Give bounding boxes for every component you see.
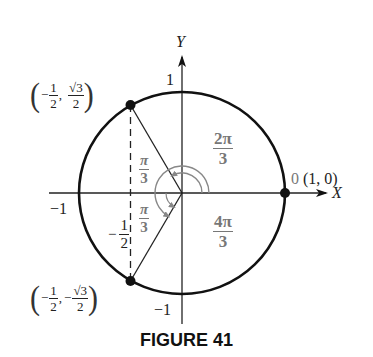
- point-upper: [126, 100, 136, 110]
- angle-label-2pi-3: 2π 3: [213, 130, 233, 167]
- point-right-label: 0 (1, 0): [291, 170, 338, 188]
- angle-label-lower-pi-3: π 3: [139, 202, 149, 235]
- tick-x-neg-1: −1: [50, 200, 67, 218]
- minus-sign: −: [108, 226, 116, 243]
- half-fraction: 1 2: [119, 218, 129, 251]
- point-right: [280, 188, 290, 198]
- point-lower: [126, 276, 136, 286]
- figure-caption: FIGURE 41: [0, 330, 373, 351]
- tick-y-neg-1: −1: [154, 301, 171, 319]
- tick-x-neg-half: − 1 2: [108, 218, 129, 251]
- angle-label-4pi-3: 4π 3: [213, 213, 233, 250]
- angle-label-upper-pi-3: π 3: [139, 153, 149, 186]
- point-lower-label: ( − 1 2 , − √3 2 ): [30, 283, 98, 313]
- angle-arc-inner-pi-3: [166, 193, 174, 207]
- tick-y-1: 1: [166, 71, 174, 89]
- y-axis-label: Y: [176, 33, 185, 51]
- point-upper-label: ( − 1 2 , √3 2 ): [30, 80, 94, 110]
